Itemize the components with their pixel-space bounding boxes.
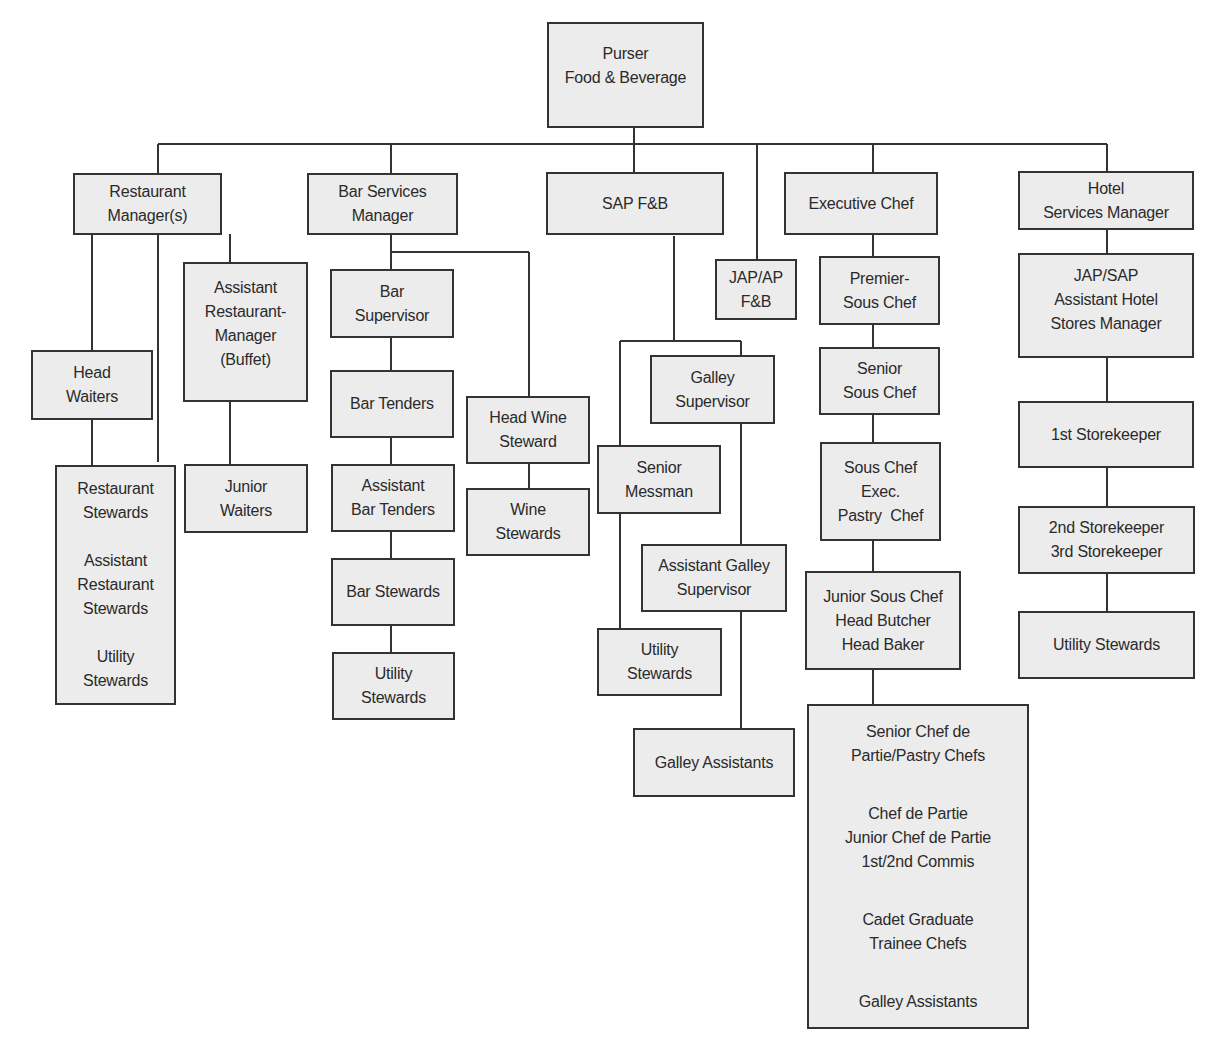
box-label: Restaurant <box>109 180 185 204</box>
box-wine-stewards: Wine Stewards <box>466 488 590 556</box>
box-group: Senior Chef de Partie/Pastry Chefs <box>851 720 985 768</box>
box-label: 1st Storekeeper <box>1051 423 1161 447</box>
box-junior-sous-chef-group: Junior Sous Chef Head Butcher Head Baker <box>805 571 961 670</box>
box-label: Junior <box>225 475 267 499</box>
box-label: Chef de Partie <box>845 802 991 826</box>
box-executive-chef: Executive Chef <box>784 172 938 235</box>
box-label: Sous Chef <box>843 381 916 405</box>
box-label: Bar Stewards <box>346 580 440 604</box>
box-label: Sous Chef <box>843 291 916 315</box>
box-label: Galley <box>690 366 734 390</box>
box-head-wine-steward: Head Wine Steward <box>466 396 590 464</box>
box-label: Bar Services <box>338 180 426 204</box>
box-label: Utility <box>641 638 679 662</box>
box-junior-waiters: Junior Waiters <box>184 464 308 533</box>
box-label: F&B <box>741 290 772 314</box>
box-label: Galley Assistants <box>655 751 773 775</box>
box-label: Restaurant- <box>205 300 286 324</box>
box-senior-sous-chef: Senior Sous Chef <box>819 347 940 415</box>
box-label: Utility Stewards <box>1053 633 1160 657</box>
box-label: Restaurant <box>77 573 153 597</box>
box-label: Assistant <box>214 276 277 300</box>
box-second-third-storekeeper: 2nd Storekeeper 3rd Storekeeper <box>1018 506 1195 574</box>
box-hotel-services-manager: Hotel Services Manager <box>1018 171 1194 230</box>
box-label: Galley Assistants <box>859 990 977 1014</box>
box-label: Head Baker <box>842 633 925 657</box>
box-jap-sap-stores: JAP/SAP Assistant Hotel Stores Manager <box>1018 253 1194 358</box>
box-label: JAP/AP <box>729 266 783 290</box>
box-label: Services Manager <box>1043 201 1169 225</box>
box-label: 1st/2nd Commis <box>845 850 991 874</box>
box-label: Steward <box>499 430 556 454</box>
box-label: SAP F&B <box>602 192 668 216</box>
box-label: (Buffet) <box>220 348 271 372</box>
box-label: Supervisor <box>677 578 751 602</box>
box-label: Bar Tenders <box>351 498 435 522</box>
box-label: Assistant <box>361 474 424 498</box>
box-group: Restaurant Stewards <box>77 477 153 525</box>
box-label: 2nd Storekeeper <box>1049 516 1164 540</box>
box-label: Assistant <box>77 549 153 573</box>
box-label: Junior Sous Chef <box>823 585 943 609</box>
box-galley-utility-stewards: Utility Stewards <box>597 628 722 696</box>
box-senior-messman: Senior Messman <box>597 445 721 514</box>
box-label: Stewards <box>77 597 153 621</box>
box-assistant-bar-tenders: Assistant Bar Tenders <box>331 464 455 532</box>
box-bar-tenders: Bar Tenders <box>330 370 454 438</box>
box-premier-sous-chef: Premier- Sous Chef <box>819 256 940 325</box>
box-jap-ap-fb: JAP/AP F&B <box>715 259 797 320</box>
box-label: Pastry Chef <box>838 504 924 528</box>
box-assistant-restaurant-manager: Assistant Restaurant- Manager (Buffet) <box>183 262 308 402</box>
box-label: JAP/SAP <box>1074 264 1138 288</box>
box-label: Stewards <box>77 501 153 525</box>
box-bar-services-manager: Bar Services Manager <box>307 173 458 235</box>
box-label: Stewards <box>83 669 148 693</box>
box-hotel-utility-stewards: Utility Stewards <box>1018 611 1195 679</box>
box-group: Cadet Graduate Trainee Chefs <box>862 908 973 956</box>
box-label: Purser <box>603 42 649 66</box>
box-assistant-galley-supervisor: Assistant Galley Supervisor <box>641 544 787 612</box>
box-label: Stewards <box>361 686 426 710</box>
box-bar-stewards: Bar Stewards <box>331 558 455 626</box>
box-label: Executive Chef <box>809 192 914 216</box>
box-bar-utility-stewards: Utility Stewards <box>332 652 455 720</box>
box-label: Senior Chef de <box>851 720 985 744</box>
box-label: Stewards <box>627 662 692 686</box>
box-label: 3rd Storekeeper <box>1051 540 1163 564</box>
box-sap-fb: SAP F&B <box>546 172 724 235</box>
box-label: Utility <box>83 645 148 669</box>
box-label: Bar Tenders <box>350 392 434 416</box>
box-galley-supervisor: Galley Supervisor <box>650 355 775 424</box>
box-kitchen-brigade-group: Senior Chef de Partie/Pastry Chefs Chef … <box>807 704 1029 1029</box>
box-label: Cadet Graduate <box>862 908 973 932</box>
box-label: Head Butcher <box>835 609 930 633</box>
box-label: Head <box>73 361 110 385</box>
box-label: Trainee Chefs <box>862 932 973 956</box>
box-label: Junior Chef de Partie <box>845 826 991 850</box>
box-label: Hotel <box>1088 177 1124 201</box>
box-label: Assistant Galley <box>658 554 770 578</box>
box-restaurant-stewards-group: Restaurant Stewards Assistant Restaurant… <box>55 465 176 705</box>
box-label: Partie/Pastry Chefs <box>851 744 985 768</box>
box-label: Supervisor <box>675 390 749 414</box>
box-label: Premier- <box>850 267 910 291</box>
box-label: Bar <box>380 280 404 304</box>
box-label: Stores Manager <box>1050 312 1161 336</box>
box-label: Manager(s) <box>108 204 188 228</box>
box-label: Senior <box>636 456 681 480</box>
box-group: Chef de Partie Junior Chef de Partie 1st… <box>845 802 991 874</box>
box-galley-assistants: Galley Assistants <box>633 728 795 797</box>
box-label: Stewards <box>495 522 560 546</box>
box-label: Head Wine <box>489 406 566 430</box>
box-label: Waiters <box>66 385 118 409</box>
box-label: Senior <box>857 357 902 381</box>
box-restaurant-manager: Restaurant Manager(s) <box>73 173 222 235</box>
box-label: Messman <box>625 480 693 504</box>
box-label: Waiters <box>220 499 272 523</box>
box-label: Manager <box>352 204 414 228</box>
box-group: Assistant Restaurant Stewards <box>77 549 153 621</box>
box-group: Galley Assistants <box>859 990 977 1014</box>
box-first-storekeeper: 1st Storekeeper <box>1018 401 1194 468</box>
box-label: Exec. <box>861 480 900 504</box>
box-sous-chef-group: Sous Chef Exec. Pastry Chef <box>820 442 941 541</box>
